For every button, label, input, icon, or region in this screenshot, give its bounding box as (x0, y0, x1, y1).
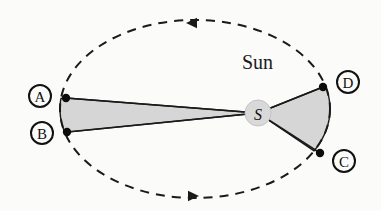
orbit-point-label-b: B (31, 122, 53, 144)
orbit-point-dot-a (62, 94, 70, 102)
orbit-point-label-c: C (333, 150, 355, 172)
orbit-point-label-b-text: B (37, 126, 47, 142)
orbit-point-label-c-text: C (339, 154, 349, 170)
orbit-point-dot-b (63, 128, 71, 136)
kepler-second-law-figure: S Sun A B C D (0, 0, 381, 211)
orbit-point-label-d-text: D (343, 75, 354, 91)
orbit-point-label-a-text: A (35, 89, 46, 105)
orbit-point-dot-c (316, 149, 324, 157)
orbit-point-dot-d (319, 83, 327, 91)
orbit-point-label-d: D (337, 71, 359, 93)
sun-marker-letter: S (254, 106, 262, 123)
orbit-diagram-svg: S Sun A B C D (0, 0, 381, 211)
orbit-point-label-a: A (29, 85, 51, 107)
sun-caption-label: Sun (242, 51, 273, 73)
